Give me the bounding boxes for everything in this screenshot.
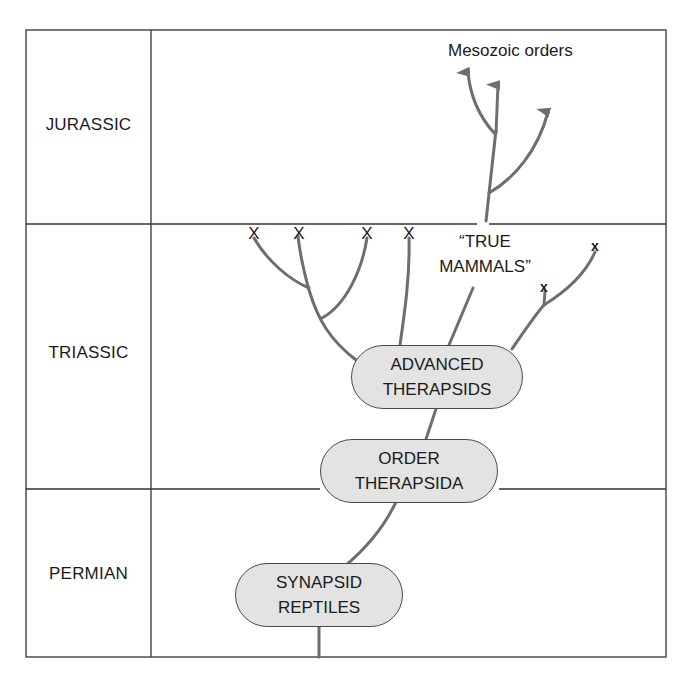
- node-synapsid-reptiles: SYNAPSID REPTILES: [235, 563, 403, 627]
- extinction-mark-6: x: [591, 239, 599, 253]
- branch-extinct-c: [400, 238, 409, 345]
- extinction-mark-4: X: [403, 225, 414, 242]
- branch-order-to-advanced: [426, 409, 436, 439]
- branch-extinct-b: [322, 238, 367, 318]
- label-true-mammals-line2: MAMMALS”: [430, 254, 540, 279]
- branch-true-mammals-lower: [449, 288, 473, 345]
- period-label-triassic: TRIASSIC: [26, 343, 151, 363]
- branch-extinct-main: [298, 236, 356, 360]
- branch-mesozoic-center: [496, 85, 498, 133]
- node-order-line1: ORDER: [378, 446, 439, 471]
- branch-right-extinct-x2: [544, 252, 595, 305]
- label-mesozoic-orders: Mesozoic orders: [448, 41, 573, 61]
- branch-true-mammals-upper: [486, 130, 496, 221]
- node-advanced-line1: ADVANCED: [390, 352, 483, 377]
- period-label-permian: PERMIAN: [26, 564, 151, 584]
- branch-mesozoic-left: [468, 72, 494, 133]
- extinction-mark-5: x: [540, 280, 548, 294]
- extinction-mark-1: X: [248, 225, 259, 242]
- branch-right-extinct-main: [512, 305, 544, 349]
- period-label-jurassic: JURASSIC: [26, 115, 151, 135]
- node-order-therapsida: ORDER THERAPSIDA: [320, 439, 498, 503]
- node-synapsid-line2: REPTILES: [278, 595, 360, 620]
- branch-synapsid-to-order: [345, 502, 396, 566]
- label-true-mammals-line1: “TRUE: [430, 229, 540, 254]
- extinction-mark-2: X: [293, 225, 304, 242]
- node-synapsid-line1: SYNAPSID: [276, 570, 362, 595]
- node-advanced-therapsids: ADVANCED THERAPSIDS: [351, 345, 523, 409]
- label-true-mammals: “TRUE MAMMALS”: [430, 229, 540, 279]
- extinction-mark-3: X: [361, 225, 372, 242]
- node-order-line2: THERAPSIDA: [355, 471, 464, 496]
- node-advanced-line2: THERAPSIDS: [383, 377, 492, 402]
- branch-extinct-a: [254, 238, 309, 288]
